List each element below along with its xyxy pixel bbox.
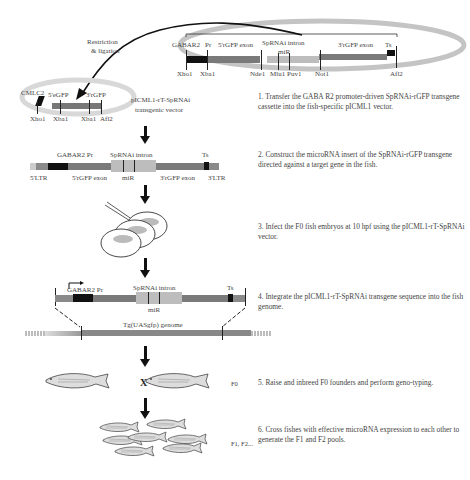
insert-label-ltr5: 5'LTR — [30, 175, 47, 182]
step-2-number: 2. — [258, 150, 264, 159]
genome-right-dashes — [251, 331, 271, 336]
insert-label-intron: SpRNAi intron — [110, 152, 153, 159]
afl2-site — [396, 46, 397, 68]
insert-label-3exon: 3'rGFP exon — [160, 175, 195, 182]
label-ts: Ts — [385, 42, 392, 49]
step-5: 5. Raise and inbreed F0 founders and per… — [258, 378, 468, 388]
step-1: 1. Transfer the GABA R2 promoter-driven … — [258, 92, 468, 112]
int-gabar2-segment — [73, 294, 93, 302]
int-mir-tick-b — [159, 292, 160, 304]
intron-segment — [267, 56, 319, 63]
f1-f2-label: F1, F2... — [231, 441, 253, 448]
site-nde1: Nde1 — [250, 71, 265, 78]
step-4-text: Integrate the pICML1-rT-SpRNAi transgene… — [258, 292, 463, 311]
step-6-text: Cross fishes with effective microRNA exp… — [258, 425, 459, 444]
mir-tick-b — [134, 160, 135, 172]
label-sprnai-intron: SpRNAi intron — [262, 40, 305, 47]
step-3: 3. Infect the F0 fish embryos at 10 hpf … — [258, 222, 468, 242]
step-3-number: 3. — [258, 222, 264, 231]
nde1-site — [261, 50, 262, 70]
not1-site — [320, 50, 321, 70]
site-not1: Not1 — [315, 71, 329, 78]
vector-name-2: transgenic vector — [135, 107, 183, 114]
five-exon-segment — [68, 163, 111, 170]
int-right-segment — [233, 295, 245, 302]
vector-xba1-site-b — [89, 100, 90, 114]
cross-symbol: X — [140, 378, 147, 388]
right-boundary — [245, 288, 246, 306]
ts-segment — [387, 50, 395, 56]
genome-bar — [81, 330, 251, 336]
site-puv1: Puv1 — [287, 71, 301, 78]
f0-fish-illustration — [20, 368, 260, 408]
vector-afl2-site — [101, 100, 102, 114]
xba1-site — [207, 50, 208, 70]
mir-tick-a — [123, 160, 124, 172]
step-3-text: Infect the F0 fish embryos at 10 hpf usi… — [258, 222, 465, 241]
xho1-site — [186, 50, 187, 70]
f1-f2-fish-school — [95, 418, 275, 478]
restriction-label-2: & ligation — [91, 48, 120, 55]
step-2: 2. Construct the microRNA insert of the … — [258, 150, 468, 170]
gabar2-segment — [186, 56, 208, 63]
int-label-ts: Ts — [227, 285, 234, 292]
ltr5-segment — [36, 163, 48, 170]
arrow-step-1 — [144, 126, 147, 137]
gabar2-pr-segment — [48, 163, 68, 170]
site-afl2: Afl2 — [390, 71, 403, 78]
vector-site-afl2: Afl2 — [100, 116, 113, 123]
step-4-number: 4. — [258, 292, 264, 301]
arrow-step-2 — [144, 185, 147, 197]
label-3rgfp-exon: 3'rGFP exon — [338, 42, 373, 49]
step-1-number: 1. — [258, 92, 264, 101]
insert-label-mir: miR — [122, 175, 134, 182]
label-cmlc2: CMLC2 — [21, 90, 44, 97]
int-three-exon-segment — [182, 295, 228, 302]
genome-left-dashes — [25, 331, 45, 336]
site-xba1: Xba1 — [200, 71, 215, 78]
five-exon-segment — [208, 56, 260, 63]
arrow-step-4 — [144, 346, 147, 360]
restriction-label-1: Restriction — [87, 39, 118, 46]
int-label-gabar2: GABAR2 Pr — [67, 287, 103, 294]
vector-xba1-site-a — [60, 100, 61, 114]
three-exon-segment — [319, 54, 387, 60]
vector-site-xho1: Xho1 — [30, 116, 46, 123]
label-5egfp: 5'eGFP — [48, 92, 69, 99]
genome-label: Tg(UASgfp) genome — [123, 322, 183, 329]
step-5-number: 5. — [258, 378, 264, 387]
vector-site-xba1-b: Xba1 — [81, 116, 96, 123]
step-2-text: Construct the microRNA insert of the SpR… — [258, 150, 452, 169]
label-mir: miR — [278, 49, 290, 56]
label-pr: Pr — [205, 42, 211, 49]
ltr3-segment — [209, 163, 219, 170]
insert-label-ltr3: 3'LTR — [208, 175, 225, 182]
label-5rgfp-exon: 5'rGFP exon — [218, 42, 253, 49]
step-4: 4. Integrate the pICML1-rT-SpRNAi transg… — [258, 292, 468, 312]
f0-label: F0 — [231, 381, 238, 388]
step-5-text: Raise and inbreed F0 founders and perfor… — [265, 378, 433, 387]
int-mir-tick-a — [148, 292, 149, 304]
site-xho1: Xho1 — [177, 71, 193, 78]
vector-site-xba1-a: Xba1 — [53, 116, 68, 123]
int-label-intron: SpRNAi intron — [133, 285, 176, 292]
fish-icon — [46, 374, 109, 388]
arrow-step-3 — [144, 258, 147, 271]
genome-insert-right — [222, 326, 223, 340]
label-gabar2: GABAR2 — [172, 42, 200, 49]
genome-insert-left — [81, 326, 82, 340]
arrow-step-5 — [144, 398, 147, 412]
step-6: 6. Cross fishes with effective microRNA … — [258, 425, 468, 445]
int-left-segment — [55, 295, 73, 302]
vector-xho1-site — [37, 100, 38, 114]
insert-label-ts: Ts — [202, 152, 209, 159]
three-exon-segment — [156, 163, 204, 170]
insert-label-5exon: 5'rGFP exon — [72, 175, 107, 182]
insert-label-gabar2: GABAR2 Pr — [57, 152, 93, 159]
step-6-number: 6. — [258, 425, 264, 434]
site-mlu1: Mlu1 — [270, 71, 285, 78]
genome-left-fade — [45, 331, 81, 336]
vector-name-1: pICML1-rT-SpRNAi — [131, 97, 190, 104]
embryos-injection-illustration — [105, 202, 185, 262]
label-3rgfp: 3'rGFP — [86, 92, 106, 99]
